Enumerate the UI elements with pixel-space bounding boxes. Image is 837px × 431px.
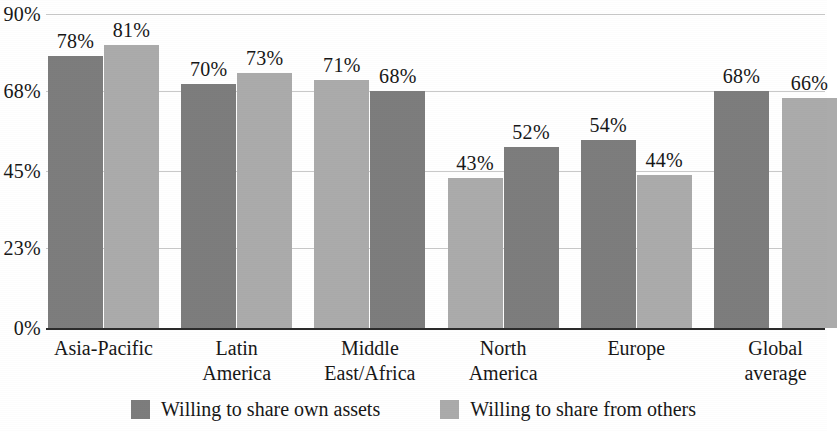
x-axis-category-label: Latin America	[181, 336, 292, 386]
bar-own: 78%	[48, 56, 103, 328]
bar-value-label: 73%	[246, 47, 284, 70]
bar-value-label: 78%	[57, 30, 95, 53]
bar-others: 44%	[637, 175, 692, 329]
bar-others: 81%	[104, 45, 159, 328]
legend-item[interactable]: Willing to share own assets	[131, 398, 380, 421]
bar-value-label: 52%	[512, 121, 550, 144]
bar-value-label: 44%	[646, 149, 684, 172]
chart-legend: Willing to share own assetsWilling to sh…	[0, 398, 827, 421]
bar-value-label: 81%	[113, 19, 151, 42]
x-axis-category-label: Europe	[581, 336, 692, 361]
x-axis-category-label: Global average	[714, 336, 837, 386]
legend-swatch-own	[131, 400, 150, 419]
y-axis-tick-label: 0%	[0, 317, 41, 340]
bar-value-label: 43%	[456, 152, 494, 175]
legend-label: Willing to share own assets	[161, 398, 380, 421]
x-axis-baseline	[46, 328, 825, 330]
bar-own: 68%	[714, 91, 769, 328]
bar-value-label: 70%	[190, 58, 228, 81]
bar-own: 68%	[370, 91, 425, 328]
x-axis-category-label: Asia-Pacific	[48, 336, 159, 361]
y-axis-tick-label: 45%	[0, 160, 41, 183]
y-axis-tick-label: 90%	[0, 3, 41, 26]
bar-others: 43%	[448, 178, 503, 328]
bar-own: 70%	[181, 84, 236, 328]
bar-value-label: 66%	[791, 72, 829, 95]
bar-others: 71%	[314, 80, 369, 328]
bar-value-label: 68%	[723, 65, 761, 88]
bar-others: 66%	[782, 98, 837, 328]
bar-value-label: 54%	[590, 114, 628, 137]
bar-own: 54%	[581, 140, 636, 328]
x-axis-category-label: Middle East/Africa	[314, 336, 425, 386]
x-axis-category-label: North America	[448, 336, 559, 386]
legend-swatch-others	[440, 400, 459, 419]
legend-item[interactable]: Willing to share from others	[440, 398, 696, 421]
bar-value-label: 71%	[323, 54, 361, 77]
y-axis-tick-label: 68%	[0, 79, 41, 102]
bar-others: 73%	[237, 73, 292, 328]
bar-value-label: 68%	[379, 65, 417, 88]
plot-area: 78%81%70%73%71%68%43%52%54%44%68%66%	[46, 14, 825, 328]
y-axis-tick-label: 23%	[0, 236, 41, 259]
legend-label: Willing to share from others	[470, 398, 696, 421]
bar-series-group: 78%81%70%73%71%68%43%52%54%44%68%66%	[46, 14, 825, 328]
bar-own: 52%	[504, 147, 559, 328]
